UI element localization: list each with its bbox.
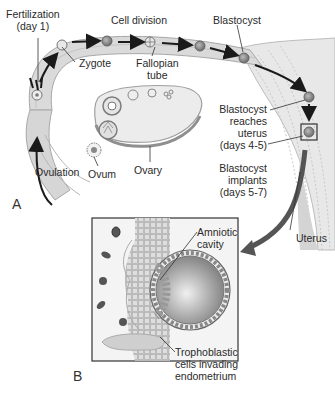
label-implants-line2: implants	[215, 174, 267, 186]
label-fallopian-line1: Fallopian	[136, 57, 179, 69]
label-uterus: Uterus	[296, 232, 327, 244]
label-ovum: Ovum	[88, 168, 116, 180]
label-fallopian-tube: Fallopian tube	[136, 57, 179, 81]
ovum-icon	[87, 143, 101, 157]
label-fertilization: Fertilization (day 1)	[6, 8, 60, 32]
label-amniotic-line2: cavity	[197, 238, 237, 250]
label-trophoblastic-cells: Trophoblastic cells invading endometrium	[175, 346, 238, 382]
label-cell-division: Cell division	[111, 14, 167, 26]
label-ovulation: Ovulation	[35, 166, 79, 178]
label-tropho-line1: Trophoblastic	[175, 346, 238, 358]
label-amniotic-cavity: Amniotic cavity	[197, 226, 237, 250]
label-blastocyst: Blastocyst	[213, 14, 261, 26]
label-reaches-line1: Blastocyst	[215, 103, 267, 115]
panel-label-b: B	[73, 368, 82, 384]
label-reaches-line4: (days 4-5)	[215, 139, 267, 151]
label-blastocyst-reaches-uterus: Blastocyst reaches uterus (days 4-5)	[215, 103, 267, 151]
label-tropho-line2: cells invading	[175, 358, 238, 370]
label-blastocyst-implants: Blastocyst implants (days 5-7)	[215, 162, 267, 198]
label-tropho-line3: endometrium	[175, 370, 238, 382]
label-reaches-line3: uterus	[215, 127, 267, 139]
label-reaches-line2: reaches	[215, 115, 267, 127]
label-fallopian-line2: tube	[136, 69, 179, 81]
zoom-arrowhead	[240, 240, 256, 256]
label-implants-line3: (days 5-7)	[215, 186, 267, 198]
label-fertilization-line1: Fertilization	[6, 8, 60, 20]
ovary	[95, 86, 202, 147]
label-ovary: Ovary	[134, 164, 162, 176]
panel-label-a: A	[12, 196, 21, 212]
label-implants-line1: Blastocyst	[215, 162, 267, 174]
label-amniotic-line1: Amniotic	[197, 226, 237, 238]
label-fertilization-line2: (day 1)	[6, 20, 60, 32]
label-zygote: Zygote	[79, 57, 111, 69]
